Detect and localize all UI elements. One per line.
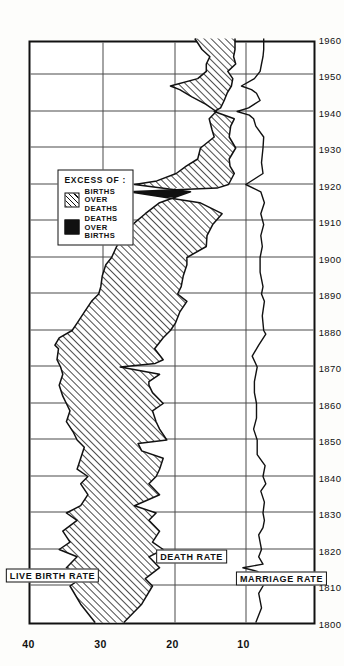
x-axis-tick-label: 1910 (319, 218, 342, 229)
callout-marriage-rate: MARRIAGE RATE (236, 572, 327, 586)
x-axis-tick-label: 1900 (319, 254, 342, 265)
rotated-chart-canvas: LIVE BIRTH RATE DEATH RATE MARRIAGE RATE… (29, 41, 316, 625)
x-axis-tick-label: 1850 (319, 437, 342, 448)
series-layer (31, 39, 318, 623)
chart-figure: LIVE BIRTH RATE DEATH RATE MARRIAGE RATE… (0, 0, 344, 666)
legend-entry-births-over-deaths: BIRTHS OVER DEATHS (65, 188, 127, 213)
x-axis-tick-label: 1940 (319, 108, 342, 119)
fill-births-over-deaths (55, 39, 236, 623)
x-axis-tick-label: 1960 (319, 35, 342, 46)
x-axis-tick-label: 1860 (319, 400, 342, 411)
legend-entry-label: DEATHS OVER BIRTHS (85, 215, 118, 240)
callout-death-rate: DEATH RATE (156, 550, 227, 564)
x-axis-tick-label: 1820 (319, 546, 342, 557)
x-axis-tick-label: 1880 (319, 327, 342, 338)
x-axis-tick-label: 1810 (319, 583, 342, 594)
x-axis-tick-label: 1800 (319, 619, 342, 630)
x-axis-tick-label: 1920 (319, 181, 342, 192)
legend-title: EXCESS OF : (65, 175, 127, 185)
legend-entry-label: BIRTHS OVER DEATHS (85, 188, 118, 213)
y-axis-tick-label: 30 (94, 638, 106, 650)
x-axis-tick-label: 1870 (319, 364, 342, 375)
x-axis-tick-label: 1890 (319, 291, 342, 302)
x-axis-tick-label: 1930 (319, 145, 342, 156)
x-axis-tick-label: 1840 (319, 473, 342, 484)
callout-live-birth-rate: LIVE BIRTH RATE (5, 568, 98, 582)
legend: EXCESS OF : BIRTHS OVER DEATHS DEATHS OV… (58, 170, 134, 246)
hatched-swatch-icon (65, 193, 80, 208)
x-axis-tick-label: 1950 (319, 72, 342, 83)
plot-area: LIVE BIRTH RATE DEATH RATE MARRIAGE RATE… (29, 41, 316, 625)
x-axis-tick-label: 1830 (319, 510, 342, 521)
y-axis-tick-label: 40 (22, 638, 34, 650)
y-axis-tick-label: 20 (166, 638, 178, 650)
series-line-marriage-rate (237, 39, 267, 623)
y-axis-tick-label: 10 (238, 638, 250, 650)
legend-entry-deaths-over-births: DEATHS OVER BIRTHS (65, 215, 127, 240)
band-births-over-deaths (135, 113, 236, 188)
solid-swatch-icon (65, 220, 80, 235)
